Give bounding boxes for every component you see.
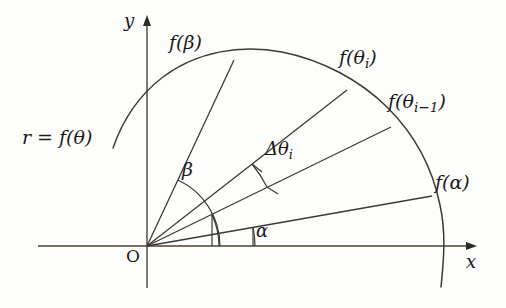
origin-label: O [126, 248, 140, 265]
y-axis [143, 15, 151, 288]
delta-theta-arc [252, 164, 267, 187]
f-theta-im1-head: f(θ [388, 90, 414, 112]
f-theta-i-minus-1-label: f(θi−1) [388, 92, 446, 115]
delta-theta-label: Δθi [265, 140, 293, 162]
y-axis-arrowhead [143, 15, 151, 26]
f-beta-label: f(β) [169, 33, 202, 52]
f-theta-im1-tail: ) [438, 90, 445, 112]
curve-equation-label: r = f(θ) [22, 128, 92, 147]
polar-curve [113, 49, 444, 287]
f-theta-i-label: f(θi) [339, 48, 377, 71]
y-axis-label: y [124, 12, 134, 30]
x-axis [38, 242, 477, 250]
f-theta-i-head: f(θ [339, 46, 365, 68]
f-theta-i-tail: ) [369, 46, 376, 68]
ray-f-beta [147, 60, 234, 246]
alpha-angle-label: α [256, 222, 268, 240]
x-axis-label: x [466, 253, 476, 271]
f-theta-im1-subscript: i−1 [414, 99, 439, 115]
delta-theta-tick-lower [267, 187, 278, 194]
ray-f-theta-i [147, 90, 347, 246]
delta-theta-subscript: i [289, 147, 293, 162]
figure-canvas: r = f(θ) f(β) f(θi) f(θi−1) f(α) Δθi β α… [0, 0, 506, 308]
x-axis-arrowhead [466, 242, 477, 250]
beta-angle-label: β [182, 160, 193, 179]
delta-theta-head: Δθ [265, 138, 289, 159]
ray-f-alpha [147, 196, 432, 246]
f-alpha-label: f(α) [435, 173, 470, 192]
polar-sector-diagram [0, 0, 506, 308]
